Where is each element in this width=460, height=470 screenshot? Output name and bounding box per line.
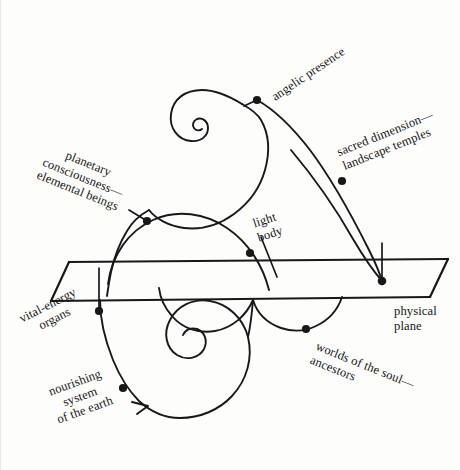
upper-spiral-outer-path (149, 104, 268, 228)
node-vital-energy (95, 307, 103, 315)
lower-spiral-path (166, 300, 249, 418)
plane-top-edge (69, 259, 448, 262)
figure-root: angelic presence sacred dimension— lands… (0, 0, 460, 470)
soul-arc-path (253, 297, 342, 330)
node-sacred-dimension (338, 177, 346, 185)
physical-plane-shape (51, 259, 448, 301)
node-physical-plane (378, 277, 387, 286)
node-angelic-presence (253, 96, 261, 104)
lower-left-hook-path (159, 288, 253, 332)
spiral-arrowhead (132, 402, 148, 414)
node-planetary-consciousness (143, 217, 151, 225)
node-worlds-of-the-soul (302, 325, 310, 333)
node-light-body (246, 249, 254, 257)
leader-ticks-group (99, 100, 382, 311)
label-physical-plane: physical plane (394, 304, 437, 333)
upper-spiral-path (171, 90, 242, 141)
dome-arc-path (108, 214, 269, 290)
left-shoulder-path (107, 210, 149, 296)
plane-right-edge (430, 259, 448, 297)
right-limb-path (291, 150, 382, 281)
plane-bottom-edge (51, 297, 430, 301)
node-nourishing-system (119, 384, 127, 392)
